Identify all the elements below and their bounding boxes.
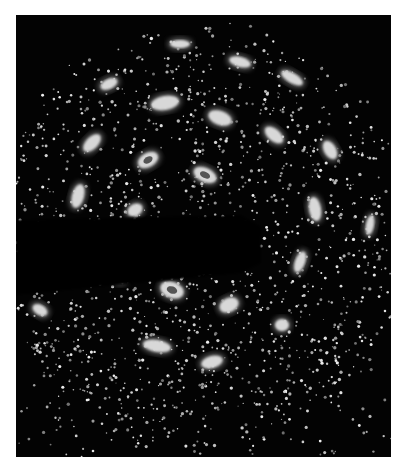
diffraction-pattern-svg [16,15,391,457]
diffraction-spots [26,37,379,374]
beam-stop [16,215,261,295]
diffraction-pattern-image [16,15,391,457]
